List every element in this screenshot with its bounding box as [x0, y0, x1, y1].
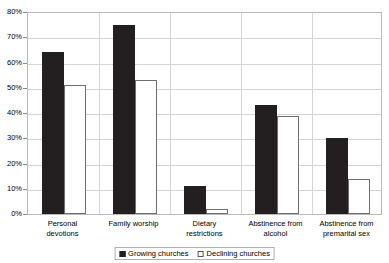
category-separator	[241, 13, 242, 214]
legend-swatch-growing-icon	[119, 251, 125, 257]
bar-declining	[206, 209, 228, 214]
chart-legend: Growing churches Declining churches	[114, 247, 275, 260]
bar-declining	[135, 80, 157, 214]
bar-growing	[326, 138, 348, 214]
bar-growing	[42, 52, 64, 214]
gridline	[28, 64, 381, 65]
y-axis-tick-label: 50%	[7, 84, 22, 92]
x-axis-label: Family worship	[98, 219, 169, 229]
bar-declining	[64, 85, 86, 214]
x-axis-label: Dietary restrictions	[169, 219, 240, 238]
bar-growing	[113, 25, 135, 214]
plot-area	[27, 12, 382, 215]
bar-declining	[277, 116, 299, 214]
y-axis-tick-label: 20%	[7, 160, 22, 168]
legend-label-growing: Growing churches	[128, 249, 188, 258]
x-axis-label: Abstinence from premarital sex	[311, 219, 382, 238]
y-axis: 0%10%20%30%40%50%60%70%80%	[0, 0, 27, 263]
y-axis-tick-label: 30%	[7, 134, 22, 142]
x-axis-label: Abstinence from alcohol	[240, 219, 311, 238]
bar-growing	[255, 105, 277, 214]
legend-label-declining: Declining churches	[207, 249, 270, 258]
category-separator	[170, 13, 171, 214]
x-axis-labels: Personal devotionsFamily worshipDietary …	[27, 219, 382, 243]
y-axis-tick-label: 70%	[7, 33, 22, 41]
legend-item-growing: Growing churches	[119, 249, 188, 258]
category-separator	[99, 13, 100, 214]
category-separator	[312, 13, 313, 214]
y-axis-tick-label: 40%	[7, 109, 22, 117]
bar-growing	[184, 186, 206, 214]
y-axis-tick-label: 80%	[7, 8, 22, 16]
y-axis-tick-label: 10%	[7, 185, 22, 193]
y-axis-tick-label: 0%	[11, 210, 22, 218]
bar-chart: 0%10%20%30%40%50%60%70%80% Personal devo…	[0, 0, 389, 263]
x-axis-label: Personal devotions	[27, 219, 98, 238]
legend-item-declining: Declining churches	[198, 249, 270, 258]
legend-swatch-declining-icon	[198, 251, 204, 257]
bar-declining	[348, 179, 370, 214]
gridline	[28, 38, 381, 39]
y-axis-tick-label: 60%	[7, 59, 22, 67]
